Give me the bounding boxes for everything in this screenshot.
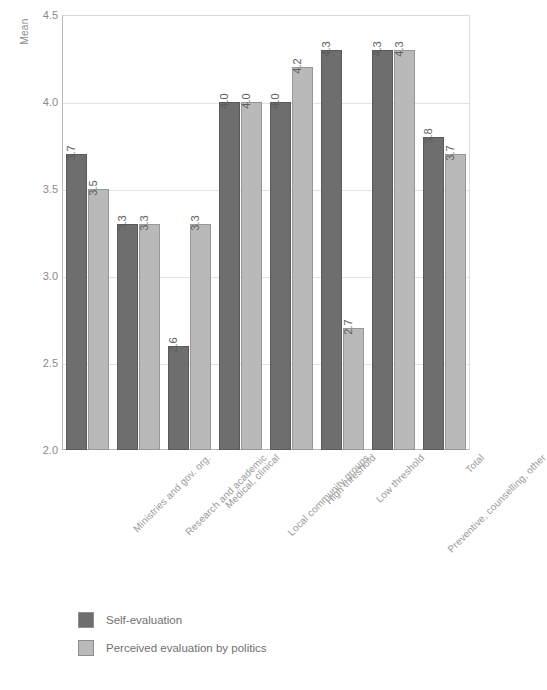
y-tick-label: 2.0	[30, 444, 58, 456]
category-label: High threshold	[323, 452, 377, 506]
category-label: Total	[463, 452, 486, 475]
legend-item: Self-evaluation	[78, 606, 266, 634]
legend-swatch	[78, 612, 94, 628]
gridline	[63, 190, 469, 191]
legend-item: Perceived evaluation by politics	[78, 634, 266, 662]
legend-swatch	[78, 640, 94, 656]
y-axis-title: Mean	[19, 2, 30, 62]
legend-label: Self-evaluation	[106, 614, 182, 626]
gridline	[63, 364, 469, 365]
gridline	[63, 277, 469, 278]
category-axis-labels: Ministries and gov. org.Research and aca…	[62, 452, 470, 572]
y-tick-label: 3.0	[30, 270, 58, 282]
y-tick-label: 4.0	[30, 96, 58, 108]
y-tick-label: 4.5	[30, 9, 58, 21]
category-label: Low threshold	[373, 452, 426, 505]
chart-legend: Self-evaluationPerceived evaluation by p…	[78, 606, 266, 662]
category-label: Preventive, counselling, other	[445, 452, 547, 555]
y-tick-label: 2.5	[30, 357, 58, 369]
gridline	[63, 103, 469, 104]
legend-label: Perceived evaluation by politics	[106, 642, 266, 654]
plot-area	[62, 15, 470, 450]
y-tick-label: 3.5	[30, 183, 58, 195]
y-axis-tick-labels: 2.02.53.03.54.04.5	[26, 15, 58, 450]
